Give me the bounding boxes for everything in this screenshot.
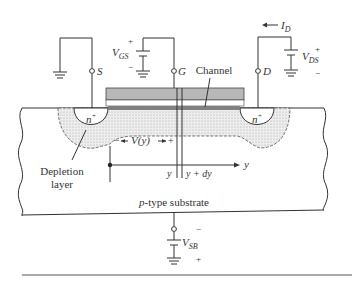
vsb-plus: + — [196, 254, 201, 264]
channel — [108, 106, 240, 110]
source-terminal-label: S — [97, 65, 103, 77]
vgs-minus: − — [128, 62, 133, 72]
gate-oxide — [106, 100, 244, 106]
y-axis-arrow — [234, 163, 240, 168]
gate-circuit — [136, 38, 176, 88]
vy-arrow-right-head — [162, 139, 166, 143]
vy-label: V(y) — [131, 134, 150, 147]
vsb-minus: − — [196, 224, 201, 234]
mosfet-diagram: n+ n+ Channel S G + VGS − D + VDS − — [0, 0, 352, 282]
channel-label: Channel — [196, 64, 233, 76]
depletion-label-1: Depletion — [40, 165, 84, 177]
vsb-circuit — [167, 212, 181, 264]
vy-plus: + — [168, 135, 174, 146]
id-label: ID — [280, 19, 291, 34]
gate-electrode — [106, 88, 244, 100]
y-dy-label: y + dy — [185, 168, 212, 179]
id-arrow-head — [262, 23, 267, 28]
vds-minus: − — [315, 68, 320, 78]
y-position-label: y — [166, 168, 172, 179]
drain-circuit — [256, 37, 298, 108]
vds-plus: + — [315, 44, 320, 54]
depletion-label-2: layer — [51, 178, 73, 190]
vgs-plus: + — [128, 36, 133, 46]
gate-terminal-label: G — [178, 65, 186, 77]
vy-arrow-left-head — [121, 139, 125, 143]
vsb-label: VSB — [182, 236, 198, 251]
vgs-label: VGS — [112, 46, 129, 61]
vy-minus: − — [114, 135, 120, 146]
substrate-label: p-type substrate — [138, 196, 209, 208]
y-axis-label: y — [243, 158, 249, 170]
drain-terminal-label: D — [262, 65, 271, 77]
source-circuit — [53, 38, 94, 108]
